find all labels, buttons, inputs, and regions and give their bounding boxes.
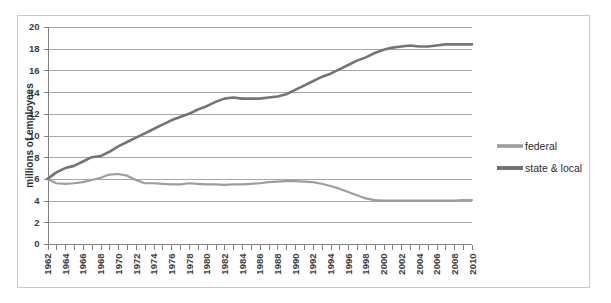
y-axis-tick-label: 20 <box>29 21 40 32</box>
y-axis-tick-label: 4 <box>34 195 40 206</box>
x-axis-tick-label: 1966 <box>77 254 88 275</box>
x-axis-tick-label: 2010 <box>467 254 478 275</box>
y-axis-tick-label: 16 <box>29 65 40 76</box>
x-axis-tick-label: 1984 <box>237 253 248 275</box>
x-axis-tick-label: 1994 <box>325 253 336 275</box>
series-line-federal <box>48 174 473 201</box>
x-axis-tick-label: 1998 <box>360 254 371 275</box>
legend-label: federal <box>525 140 557 152</box>
x-axis-tick-label: 2008 <box>449 254 460 275</box>
legend-label: state & local <box>525 162 582 174</box>
x-axis-tick-label: 1980 <box>201 254 212 275</box>
x-axis-tick-label: 1996 <box>343 254 354 275</box>
x-axis-tick-label: 2006 <box>431 254 442 275</box>
chart-legend: federalstate & local <box>497 140 582 174</box>
x-axis-tick-label: 1970 <box>113 254 124 275</box>
x-axis-tick-labels: 1962196419661968197019721974197619781980… <box>42 253 478 275</box>
x-axis-tick-label: 1968 <box>95 254 106 275</box>
chart-figure: 02468101214161820 1962196419661968197019… <box>0 0 611 303</box>
data-series <box>48 44 473 200</box>
x-axis-tick-label: 1964 <box>60 253 71 275</box>
x-axis-tick-label: 1976 <box>166 254 177 275</box>
x-axis-tick-label: 1974 <box>148 253 159 275</box>
y-axis-title-text: millions of employees <box>24 83 35 188</box>
x-axis-tick-label: 1972 <box>131 254 142 275</box>
x-axis-tick-label: 1986 <box>254 254 265 275</box>
x-axis-tick-label: 2000 <box>378 254 389 275</box>
x-axis-tick-label: 1992 <box>307 254 318 275</box>
x-axis-tick-label: 2002 <box>396 254 407 275</box>
x-axis-tick-label: 1962 <box>42 254 53 275</box>
y-axis-tick-label: 0 <box>34 238 39 249</box>
y-axis-tick-label: 18 <box>29 43 40 54</box>
x-axis-tick-label: 1990 <box>290 254 301 275</box>
x-axis-tick-marks <box>49 245 473 250</box>
gridlines <box>48 28 473 245</box>
series-line-state-local <box>48 44 473 179</box>
x-axis-tick-label: 1988 <box>272 254 283 275</box>
x-axis-tick-label: 1982 <box>219 254 230 275</box>
line-chart-plot: 02468101214161820 1962196419661968197019… <box>0 0 611 303</box>
y-axis-tick-label: 2 <box>34 217 39 228</box>
x-axis-tick-label: 2004 <box>414 253 425 275</box>
y-axis-title: millions of employees <box>24 83 35 188</box>
x-axis-tick-label: 1978 <box>184 254 195 275</box>
